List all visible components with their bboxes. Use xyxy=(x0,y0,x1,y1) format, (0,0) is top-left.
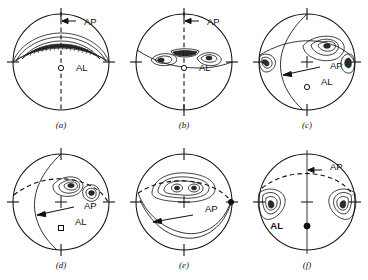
panel-f-left-lobe-maximum xyxy=(268,201,274,208)
panel-d-maximum-left xyxy=(68,183,74,187)
panel-c-ap-label: AP xyxy=(330,60,343,71)
panel-a-al-marker xyxy=(58,65,63,70)
panel-a-ap-label: AP xyxy=(84,16,97,27)
stereographic-projection-figure: AP AL (a) AP xyxy=(0,0,368,280)
panel-f-right-lobe-maximum xyxy=(340,201,346,208)
panel-e-ap-arrowhead xyxy=(153,218,162,223)
panel-b-caption: (b) xyxy=(179,120,190,130)
panel-a: AP AL (a) xyxy=(7,8,115,130)
panel-d-ap-label: AP xyxy=(84,200,97,211)
panel-c-caption: (c) xyxy=(302,120,312,130)
panel-f-ap-label: AP xyxy=(330,161,343,172)
panel-d: AP AL (d) xyxy=(7,148,115,270)
panel-f: AP AL (f) xyxy=(253,150,361,270)
panel-a-al-label: AL xyxy=(76,62,88,73)
panel-f-caption: (f) xyxy=(303,260,312,270)
panel-b-ap-label: AP xyxy=(207,16,220,27)
panel-f-al-marker xyxy=(304,223,310,229)
panel-a-ap-arrowhead xyxy=(62,18,68,23)
panel-f-girdle-dashed xyxy=(262,174,353,195)
panel-c-right-lobe-maximum xyxy=(345,58,352,68)
panel-f-ap-arrowhead xyxy=(308,167,314,172)
panel-e-ap-label: AP xyxy=(205,203,218,214)
panel-c: AP AL (c) xyxy=(253,8,361,130)
panel-b: AP AL (b) xyxy=(130,8,238,130)
panel-b-ap-arrowhead xyxy=(185,18,191,23)
panel-e-contour-inner xyxy=(164,181,203,195)
panel-b-maximum-center xyxy=(173,51,197,57)
panel-e-maximum-left xyxy=(174,186,179,190)
panel-d-al-label: AL xyxy=(75,216,87,227)
panel-b-al-label: AL xyxy=(199,62,211,73)
panel-e-caption: (e) xyxy=(179,260,189,270)
panel-c-al-label: AL xyxy=(321,76,333,87)
panel-e-edge-marker xyxy=(228,199,233,204)
panel-d-caption: (d) xyxy=(56,260,67,270)
panel-b-maximum-left xyxy=(158,58,164,62)
panel-e: AP (e) xyxy=(130,148,238,270)
panel-d-ap-arrowhead xyxy=(37,212,46,217)
panel-c-center-cross xyxy=(301,56,313,68)
panel-c-ap-arrowhead xyxy=(283,72,292,77)
panel-a-caption: (a) xyxy=(56,120,67,130)
panel-f-al-label: AL xyxy=(270,220,283,231)
panel-b-maximum-right xyxy=(206,56,212,60)
panel-d-center-cross xyxy=(55,196,67,208)
panel-b-al-marker xyxy=(181,65,186,70)
panel-e-maximum-right xyxy=(191,186,196,190)
panel-d-maximum-right xyxy=(89,191,95,196)
panel-c-left-lobe-maximum xyxy=(263,60,269,66)
panel-d-al-marker xyxy=(59,226,64,231)
panel-c-maximum xyxy=(324,44,331,49)
panel-c-al-marker xyxy=(304,84,309,89)
